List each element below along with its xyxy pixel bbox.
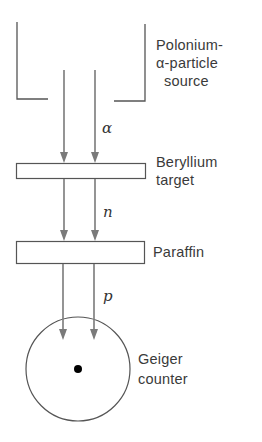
neutron-arrowheads — [60, 230, 99, 241]
alpha-beams — [64, 70, 95, 154]
beryllium-label: Beryllium target — [156, 153, 217, 189]
proton-particle-label: p — [103, 288, 113, 304]
polonium-source-container — [17, 22, 145, 101]
source-label-line-3: source — [156, 72, 223, 90]
beryllium-target — [17, 164, 146, 179]
beryllium-label-line-1: Beryllium — [156, 153, 217, 171]
geiger-label: Geiger counter — [138, 349, 188, 389]
beryllium-label-line-2: target — [156, 171, 217, 189]
alpha-particle-label: α — [102, 120, 112, 136]
neutron-particle-label: n — [103, 204, 113, 220]
geiger-label-line-2: counter — [138, 369, 188, 389]
paraffin-label-line-1: Paraffin — [153, 243, 204, 261]
paraffin-block — [17, 242, 145, 264]
paraffin-label: Paraffin — [153, 243, 204, 261]
source-label: Polonium- α-particle source — [156, 36, 223, 90]
geiger-counter-electrode — [74, 365, 82, 373]
neutron-beams — [64, 179, 95, 232]
source-label-line-1: Polonium- — [156, 36, 223, 54]
alpha-arrowheads — [60, 152, 99, 163]
geiger-label-line-1: Geiger — [138, 349, 188, 369]
source-label-line-2: α-particle — [156, 54, 223, 72]
